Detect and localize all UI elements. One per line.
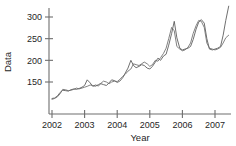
x-axis: 200220032004200520062007 xyxy=(42,110,231,130)
x-tick-label: 2003 xyxy=(75,120,95,130)
chart-container: 150200250300 200220032004200520062007 Da… xyxy=(0,0,236,146)
line-chart: 150200250300 200220032004200520062007 Da… xyxy=(0,0,236,146)
x-tick-group: 200220032004200520062007 xyxy=(42,110,225,130)
x-tick-label: 2007 xyxy=(205,120,225,130)
series-line-series_2 xyxy=(52,20,229,99)
x-tick-label: 2006 xyxy=(172,120,192,130)
x-tick-label: 2004 xyxy=(107,120,127,130)
y-tick-label: 200 xyxy=(27,56,42,66)
y-axis-title: Data xyxy=(2,51,13,72)
y-axis: 150200250300 xyxy=(27,8,53,114)
x-axis-title: Year xyxy=(130,132,149,143)
x-tick-label: 2002 xyxy=(42,120,62,130)
y-tick-label: 300 xyxy=(27,12,42,22)
series-line-series_1 xyxy=(52,6,229,98)
x-tick-label: 2005 xyxy=(140,120,160,130)
data-series-group xyxy=(52,6,229,99)
y-tick-label: 150 xyxy=(27,77,42,87)
y-tick-label: 250 xyxy=(27,34,42,44)
